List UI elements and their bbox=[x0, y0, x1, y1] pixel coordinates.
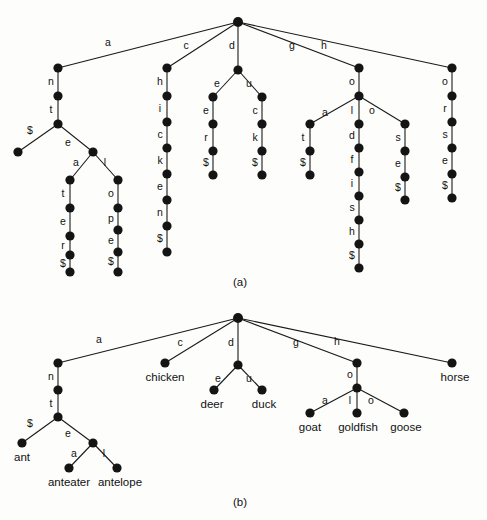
panel-b-edge-group bbox=[22, 318, 452, 468]
trie-node bbox=[400, 146, 409, 155]
trie-node bbox=[447, 143, 456, 152]
panel-b-edge-label-group: acdghnt$ealeuoalo bbox=[27, 333, 374, 459]
edge-label-u: u bbox=[246, 372, 252, 384]
trie-node bbox=[162, 143, 171, 152]
edge-label-e: e bbox=[65, 427, 71, 439]
edge-label-d: d bbox=[229, 39, 235, 51]
edge-label-c: c bbox=[177, 336, 182, 348]
trie-node bbox=[399, 408, 408, 417]
trie-node bbox=[113, 247, 122, 256]
trie-node bbox=[354, 215, 363, 224]
trie-node bbox=[209, 385, 218, 394]
edge-label-end: $ bbox=[252, 156, 258, 168]
trie-node bbox=[113, 203, 122, 212]
trie-node bbox=[113, 225, 122, 234]
edge-label-o: o bbox=[442, 75, 448, 87]
edge-label-e: e bbox=[442, 154, 448, 166]
trie-root-node bbox=[233, 17, 243, 27]
trie-edge-c bbox=[167, 22, 238, 68]
trie-node bbox=[354, 167, 363, 176]
trie-diagram-svg: acdghnt$eater$lope$hicken$eer$uck$oat$ld… bbox=[0, 0, 487, 520]
edge-label-end: $ bbox=[203, 156, 209, 168]
panel-a-node-group bbox=[13, 17, 456, 277]
edge-label-e: e bbox=[203, 104, 209, 116]
trie-node bbox=[257, 119, 266, 128]
trie-node bbox=[113, 267, 122, 276]
edge-label-r: r bbox=[443, 102, 447, 114]
trie-node bbox=[65, 267, 74, 276]
edge-label-d: d bbox=[349, 129, 355, 141]
trie-node bbox=[53, 63, 62, 72]
trie-figure-page: acdghnt$eater$lope$hicken$eer$uck$oat$ld… bbox=[0, 0, 487, 520]
trie-edge-h bbox=[238, 318, 452, 363]
edge-label-a: a bbox=[73, 156, 79, 168]
trie-node bbox=[162, 63, 171, 72]
trie-node bbox=[447, 117, 456, 126]
edge-label-o: o bbox=[349, 75, 355, 87]
edge-label-end: $ bbox=[157, 232, 163, 244]
trie-edge-e bbox=[58, 124, 93, 152]
leaf-word-label: goldfish bbox=[338, 421, 378, 433]
trie-node bbox=[354, 119, 363, 128]
edge-label-end: $ bbox=[27, 124, 33, 136]
leaf-word-label: antelope bbox=[98, 476, 142, 488]
edge-label-h: h bbox=[349, 225, 355, 237]
trie-node bbox=[162, 221, 171, 230]
trie-node bbox=[53, 412, 62, 421]
figure-caption-group: (a)(b) bbox=[233, 276, 247, 508]
edge-label-e: e bbox=[108, 234, 114, 246]
trie-node bbox=[53, 385, 62, 394]
edge-label-c: c bbox=[157, 128, 162, 140]
edge-label-n: n bbox=[157, 206, 163, 218]
trie-node bbox=[447, 193, 456, 202]
edge-label-l: l bbox=[351, 104, 353, 116]
edge-label-c: c bbox=[252, 104, 257, 116]
trie-root-node bbox=[233, 313, 243, 323]
trie-node bbox=[160, 358, 169, 367]
edge-label-n: n bbox=[48, 370, 54, 382]
trie-node bbox=[305, 146, 314, 155]
trie-node bbox=[305, 119, 314, 128]
edge-label-f: f bbox=[351, 153, 354, 165]
trie-node bbox=[447, 169, 456, 178]
edge-label-k: k bbox=[252, 131, 258, 143]
edge-label-t: t bbox=[50, 397, 53, 409]
trie-edge-a bbox=[58, 318, 238, 363]
figure-caption-b: (b) bbox=[233, 496, 247, 508]
trie-node bbox=[113, 175, 122, 184]
edge-label-e: e bbox=[395, 157, 401, 169]
trie-edge-a bbox=[58, 22, 238, 68]
trie-node bbox=[64, 463, 73, 472]
trie-node bbox=[162, 247, 171, 256]
trie-node bbox=[352, 408, 361, 417]
trie-node bbox=[354, 63, 363, 72]
trie-node bbox=[257, 146, 266, 155]
leaf-word-label: deer bbox=[200, 398, 223, 410]
leaf-word-label: duck bbox=[252, 398, 277, 410]
edge-label-o: o bbox=[108, 187, 114, 199]
trie-node bbox=[354, 239, 363, 248]
edge-label-a: a bbox=[322, 106, 328, 118]
edge-label-end: $ bbox=[349, 249, 355, 261]
panel-b-leaf-label-group: antanteaterantelopechickendeerduckgoatgo… bbox=[14, 371, 469, 488]
trie-node bbox=[65, 175, 74, 184]
trie-node bbox=[400, 195, 409, 204]
trie-node bbox=[208, 119, 217, 128]
trie-node bbox=[305, 170, 314, 179]
trie-node bbox=[88, 438, 97, 447]
leaf-word-label: ant bbox=[14, 451, 31, 463]
trie-node bbox=[208, 170, 217, 179]
edge-label-end: $ bbox=[395, 181, 401, 193]
edge-label-e: e bbox=[157, 180, 163, 192]
leaf-word-label: horse bbox=[441, 371, 470, 383]
trie-node bbox=[447, 91, 456, 100]
trie-node bbox=[162, 117, 171, 126]
trie-node bbox=[162, 169, 171, 178]
trie-node bbox=[354, 91, 363, 100]
edge-label-h: h bbox=[321, 39, 327, 51]
edge-label-o: o bbox=[347, 368, 353, 380]
edge-label-a: a bbox=[105, 36, 111, 48]
edge-label-i: i bbox=[351, 177, 353, 189]
edge-label-n: n bbox=[48, 75, 54, 87]
edge-label-s: s bbox=[349, 201, 354, 213]
